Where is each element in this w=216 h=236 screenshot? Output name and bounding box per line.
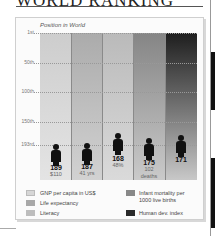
gridline-100th [34,92,197,93]
rank-sublabel: 41 yrs [72,170,102,176]
gridline-1st [34,33,197,34]
divider [0,228,16,229]
gridline-150th [34,122,197,123]
legend-swatch-infant-mortality [126,190,135,196]
rank-value: 189 [41,164,71,171]
legend-swatch-literacy [26,210,35,216]
legend-label-infant-mortality-line2: 1000 live births [139,197,176,203]
legend-swatch-human-dev-index [126,210,135,216]
page-edge-marker [211,158,215,228]
y-tick-50th: 50th [10,59,34,65]
rank-value: 168 [103,155,133,162]
chart-subtitle: Position in World [40,22,85,28]
gridline-50th [34,63,197,64]
y-tick-100th: 100th [10,88,34,94]
y-tick-193rd: 193rd [10,141,34,147]
rank-value: 175 [134,159,164,166]
title-rule [16,6,203,7]
y-tick-1st: 1st [10,29,34,35]
rank-sublabel: $110 [41,171,71,177]
legend-label-human-dev-index: Human dev. index [139,210,183,216]
y-tick-150th: 150th [10,118,34,124]
legend-label-literacy: Literacy [40,210,59,216]
legend-label-infant-mortality: Infant mortality per [139,190,185,196]
legend-label-life-expectancy: Life expectancy [40,200,78,206]
rank-sublabel: 48% [103,162,133,168]
page-edge-marker [211,52,215,110]
rank-value: 187 [72,163,102,170]
legend-swatch-life-expectancy [26,200,35,206]
legend-label-gnp: GNP per capita in US$ [40,190,96,196]
legend-swatch-gnp [26,190,35,196]
rank-sublabel: 102 [134,166,164,172]
rank-sublabel: deaths [134,173,164,179]
rank-value: 171 [166,156,196,163]
